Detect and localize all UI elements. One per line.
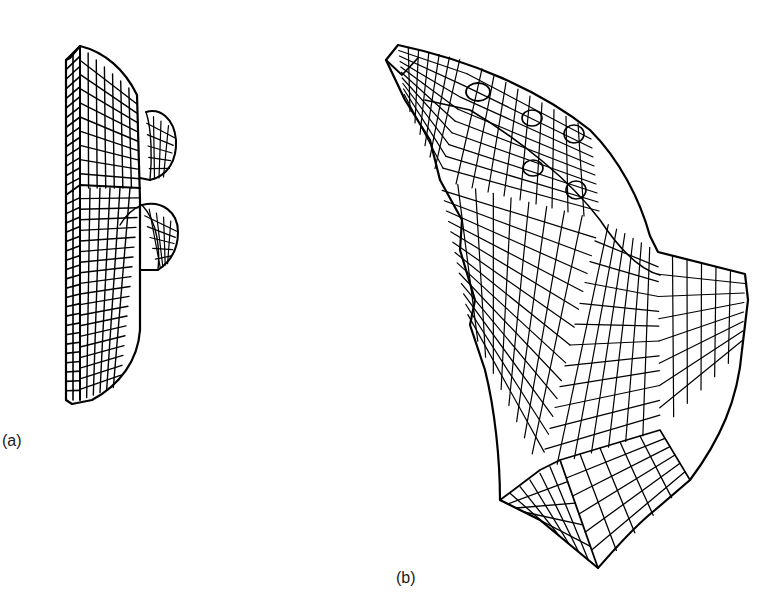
caption-b: (b)	[396, 569, 416, 587]
mesh-grid-lines	[66, 47, 745, 560]
caption-a: (a)	[2, 432, 22, 450]
mesh-a-bracket	[66, 46, 178, 404]
mesh-drawings	[0, 0, 779, 612]
figure: (a) (b)	[0, 0, 779, 612]
mesh-b-curved-part	[386, 45, 748, 568]
